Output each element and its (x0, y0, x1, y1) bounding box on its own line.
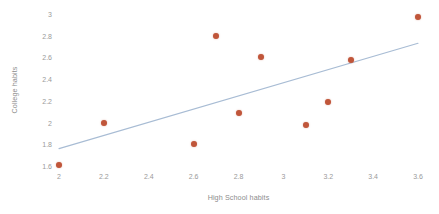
y-axis-tick-label: 2.8 (42, 32, 52, 39)
y-axis-tick-label: 2.4 (42, 76, 52, 83)
y-axis-tick-label: 2 (48, 119, 52, 126)
y-axis-tick-label: 2.6 (42, 54, 52, 61)
x-axis-tick-label: 2.2 (99, 173, 109, 180)
x-axis-tick-label: 3.2 (323, 173, 333, 180)
plot-area: 1.61.822.22.42.62.8322.22.42.62.833.23.4… (59, 14, 418, 166)
x-axis-tick-label: 2.8 (234, 173, 244, 180)
y-axis-tick-label: 1.8 (42, 141, 52, 148)
scatter-chart: College habits 1.61.822.22.42.62.8322.22… (0, 0, 439, 214)
data-point (191, 141, 197, 147)
y-axis-tick-label: 2.2 (42, 97, 52, 104)
data-point (56, 162, 62, 168)
x-axis-tick-label: 2.4 (144, 173, 154, 180)
data-point (236, 110, 242, 116)
y-axis-tick-label: 3 (48, 11, 52, 18)
x-axis-tick-label: 3.4 (368, 173, 378, 180)
caption-strip (8, 206, 308, 214)
data-point (303, 122, 309, 128)
data-point (415, 14, 421, 20)
y-axis-tick-label: 1.6 (42, 163, 52, 170)
x-axis-tick-label: 2 (57, 173, 61, 180)
trendline-layer (59, 14, 418, 166)
data-point (348, 57, 354, 63)
y-axis-title: College habits (10, 30, 24, 150)
x-axis-tick-label: 3.6 (413, 173, 423, 180)
data-point (213, 33, 219, 39)
x-axis-tick-label: 2.6 (189, 173, 199, 180)
x-axis-tick-label: 3 (281, 173, 285, 180)
trendline (59, 43, 418, 148)
x-axis-title: High School habits (59, 193, 418, 202)
data-point (101, 120, 107, 126)
